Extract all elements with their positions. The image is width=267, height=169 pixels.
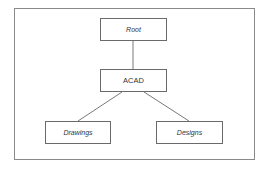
node-root-label: Root bbox=[126, 26, 141, 33]
edge-acad-designs bbox=[144, 92, 189, 121]
node-designs-label: Designs bbox=[177, 129, 202, 136]
node-designs: Designs bbox=[156, 121, 223, 144]
edge-acad-drawings bbox=[78, 92, 122, 121]
node-acad-label: ACAD bbox=[123, 76, 144, 85]
node-root: Root bbox=[100, 18, 167, 41]
node-drawings: Drawings bbox=[45, 121, 111, 144]
node-drawings-label: Drawings bbox=[63, 129, 92, 136]
node-acad: ACAD bbox=[100, 69, 167, 92]
